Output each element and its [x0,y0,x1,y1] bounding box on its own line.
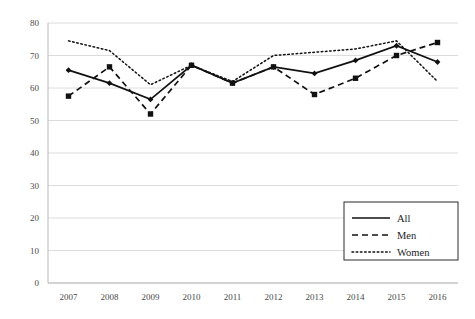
x-tick-label: 2013 [306,292,325,302]
x-tick-label: 2008 [101,292,120,302]
y-tick-label: 50 [30,116,40,126]
y-tick-label: 0 [35,278,40,288]
y-tick-label: 70 [30,51,40,61]
y-tick-label: 40 [30,148,40,158]
x-tick-label: 2009 [142,292,161,302]
x-tick-label: 2014 [347,292,366,302]
legend-label-men: Men [397,230,417,241]
y-axis-tick-labels: 01020304050607080 [30,18,40,288]
y-tick-label: 60 [30,83,40,93]
y-tick-label: 80 [30,18,40,28]
chart-canvas: 01020304050607080 2007200820092010201120… [0,0,475,319]
x-tick-label: 2015 [388,292,407,302]
data-point-marker [435,40,440,45]
data-point-marker [66,93,71,98]
data-point-marker [394,53,399,58]
y-tick-label: 20 [30,213,40,223]
data-point-marker [312,92,317,97]
x-tick-label: 2011 [224,292,242,302]
data-point-marker [271,64,276,69]
legend-label-women: Women [397,247,430,258]
x-tick-label: 2007 [60,292,79,302]
x-tick-label: 2016 [429,292,448,302]
y-tick-label: 10 [30,246,40,256]
data-point-marker [148,111,153,116]
data-point-marker [107,64,112,69]
legend-label-all: All [397,213,411,224]
chart-legend: AllMenWomen [344,202,458,260]
x-tick-label: 2012 [265,292,283,302]
y-tick-label: 30 [30,181,40,191]
line-chart: 01020304050607080 2007200820092010201120… [0,0,475,319]
data-point-marker [353,76,358,81]
x-tick-label: 2010 [183,292,202,302]
